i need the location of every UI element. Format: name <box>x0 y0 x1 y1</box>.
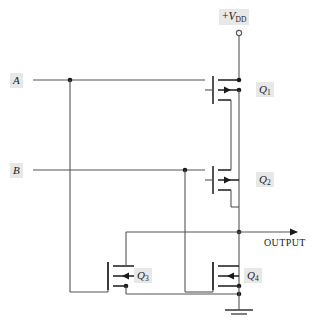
net-input-b <box>33 168 213 292</box>
output-arrow-icon <box>290 229 298 236</box>
ground-symbol <box>225 294 253 314</box>
q3-body-arrow <box>122 272 129 279</box>
supply-rail <box>236 30 241 80</box>
input-label-b: B <box>10 163 23 178</box>
transistor-label-q4: Q4 <box>244 268 262 283</box>
transistor-label-q3: Q3 <box>134 268 152 283</box>
transistor-q1 <box>205 76 241 232</box>
circuit-svg: .w { stroke: #555555; stroke-width: 1.1;… <box>0 0 313 325</box>
vdd-label: +VDD <box>219 9 249 25</box>
transistor-label-q2: Q2 <box>256 172 274 187</box>
q1-drain-junction <box>237 78 242 83</box>
net-input-a <box>33 78 205 292</box>
vdd-terminal-circle <box>236 30 241 35</box>
schematic-canvas: .w { stroke: #555555; stroke-width: 1.1;… <box>0 0 313 325</box>
transistor-q2 <box>205 130 241 234</box>
input-label-a: A <box>10 73 23 88</box>
q2-body-arrow <box>224 176 231 183</box>
transistor-q4 <box>213 262 241 296</box>
transistor-q3 <box>108 232 239 294</box>
q1-body-arrow <box>224 86 231 93</box>
q4-body-arrow <box>227 272 234 279</box>
transistor-label-q1: Q1 <box>256 82 274 97</box>
output-label: OUTPUT <box>264 237 306 248</box>
